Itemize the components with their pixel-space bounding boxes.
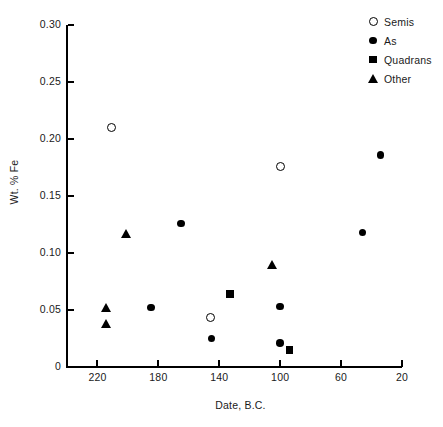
legend-item-as[interactable]: As [366,31,443,50]
x-axis-tick [340,360,342,367]
x-axis-tick [401,360,403,367]
open-circle-marker [276,162,285,171]
x-axis-tick-label: 220 [75,371,119,383]
legend-item-label: Other [384,73,411,85]
x-axis-title: Date, B.C. [0,399,443,411]
legend-item-other[interactable]: Other [366,69,443,88]
filled-circle-marker [359,229,367,237]
legend-item-quadrans[interactable]: Quadrans [366,50,443,69]
y-axis-tick-label-text: 0 [21,360,61,372]
y-axis-tick [68,195,74,197]
legend-item-label: Semis [384,16,414,28]
filled-triangle-marker [121,229,131,238]
x-axis-tick-label: 60 [319,371,363,383]
y-axis-tick [68,309,74,311]
legend: SemisAsQuadransOther [366,12,443,88]
x-axis-tick [218,360,220,367]
scatter-chart: 00.050.100.150.200.250.30 22018014010060… [0,0,443,427]
y-axis-tick-label-text: 0.15 [21,189,61,201]
y-axis-title: Wt. % Fe [8,142,20,222]
x-axis-tick [96,360,98,367]
y-axis-tick-label-text: 0.30 [21,18,61,30]
y-axis-tick [68,366,74,368]
y-axis-tick-label-text: 0.05 [21,303,61,315]
y-axis-tick-label: 0.05 [16,303,61,315]
y-axis-tick-label-text: 0.10 [21,246,61,258]
filled-triangle-marker [267,260,277,269]
filled-circle-marker [276,339,284,347]
y-axis-tick-label: 0 [16,360,61,372]
x-axis-tick [279,360,281,367]
filled-circle-marker [366,34,380,48]
x-axis-tick-label: 180 [136,371,180,383]
filled-triangle-marker [101,303,111,312]
legend-swatch-shape [369,56,377,64]
filled-square-marker [286,346,294,354]
y-axis-tick [68,138,74,140]
y-axis-tick [68,81,74,83]
legend-item-semis[interactable]: Semis [366,12,443,31]
legend-swatch-shape [369,17,378,26]
x-axis-line [66,366,402,368]
y-axis-tick-label: 0.20 [16,132,61,144]
x-axis-tick-label: 20 [380,371,424,383]
filled-circle-marker [377,151,385,159]
legend-swatch-shape [369,37,377,45]
open-circle-marker [206,313,215,322]
filled-square-marker [366,53,380,67]
y-axis-tick [68,24,74,26]
open-circle-marker [366,15,380,29]
legend-item-label: As [384,35,397,47]
legend-swatch-shape [368,74,378,83]
x-axis-tick [157,360,159,367]
y-axis-tick-label-text: 0.20 [21,132,61,144]
filled-circle-marker [177,220,185,228]
y-axis-tick-label-text: 0.25 [21,75,61,87]
open-circle-marker [107,123,116,132]
y-axis-tick-label: 0.30 [16,18,61,30]
legend-item-label: Quadrans [384,54,432,66]
y-axis-tick-label: 0.10 [16,246,61,258]
filled-triangle-marker [366,72,380,86]
x-axis-tick-label: 100 [258,371,302,383]
y-axis-tick-label: 0.25 [16,75,61,87]
x-axis-tick-label: 140 [197,371,241,383]
filled-circle-marker [208,335,216,343]
y-axis-tick [68,252,74,254]
y-axis-tick-label: 0.15 [16,189,61,201]
filled-triangle-marker [101,319,111,328]
filled-square-marker [226,290,234,298]
filled-circle-marker [276,303,284,311]
filled-circle-marker [147,304,155,312]
